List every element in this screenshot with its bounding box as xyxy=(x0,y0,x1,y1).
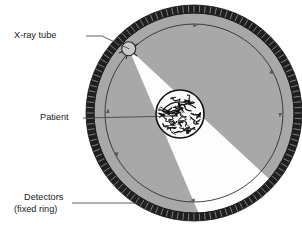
patient-cross-section xyxy=(156,90,204,138)
ct-scanner-diagram: X-ray tube Patient Detectors (fixed ring… xyxy=(0,0,302,229)
label-detectors-line2: (fixed ring) xyxy=(14,204,57,214)
label-patient: Patient xyxy=(40,112,69,122)
label-xray-tube: X-ray tube xyxy=(14,30,56,40)
label-detectors-line1: Detectors xyxy=(24,192,64,202)
figure-canvas: X-ray tube Patient Detectors (fixed ring… xyxy=(0,0,302,229)
